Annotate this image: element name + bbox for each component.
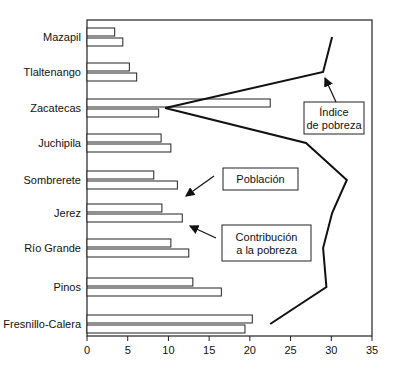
annotation-text: Población (236, 173, 284, 185)
category-labels: MazapilTlaltenangoZacatecasJuchipilaSomb… (3, 31, 82, 330)
category-label: Río Grande (24, 242, 81, 254)
annotation-arrow (186, 176, 214, 196)
x-tick-label: 5 (125, 344, 131, 356)
population-bar (87, 204, 162, 212)
category-label: Fresnillo-Calera (3, 318, 82, 330)
contribution-bar (87, 214, 182, 222)
annotation-text: Contribución (236, 231, 298, 243)
contribution-bar (87, 109, 159, 117)
x-axis-ticks: 05101520253035 (84, 336, 378, 356)
contribution-bar (87, 73, 137, 81)
category-label: Jerez (54, 207, 81, 219)
annotation-arrow (325, 78, 336, 102)
x-tick-label: 35 (366, 344, 378, 356)
annotation-arrow (190, 226, 216, 238)
category-label: Zacatecas (30, 102, 81, 114)
poverty-chart: MazapilTlaltenangoZacatecasJuchipilaSomb… (0, 0, 395, 380)
annotation-text: de pobreza (306, 119, 362, 131)
population-bar (87, 134, 161, 142)
contribution-bar (87, 325, 245, 333)
population-bar (87, 171, 154, 179)
contribution-bar (87, 288, 221, 296)
x-tick-label: 25 (284, 344, 296, 356)
category-label: Tlaltenango (24, 66, 82, 78)
category-label: Mazapil (43, 31, 81, 43)
annotation-text: Índice (319, 106, 348, 118)
x-tick-label: 10 (162, 344, 174, 356)
x-tick-label: 0 (84, 344, 90, 356)
category-label: Juchipila (38, 137, 82, 149)
contribution-bar (87, 249, 189, 257)
contribution-bar (87, 181, 177, 189)
contribution-bar (87, 144, 171, 152)
population-bar (87, 315, 252, 323)
contribution-bar (87, 38, 123, 46)
category-label: Sombrerete (24, 174, 81, 186)
population-bar (87, 63, 129, 71)
x-tick-label: 30 (325, 344, 337, 356)
x-tick-label: 20 (244, 344, 256, 356)
population-bar (87, 239, 171, 247)
category-label: Pinos (53, 281, 81, 293)
annotation-text: a la pobreza (236, 244, 297, 256)
x-tick-label: 15 (203, 344, 215, 356)
population-bar (87, 278, 193, 286)
population-bar (87, 28, 115, 36)
